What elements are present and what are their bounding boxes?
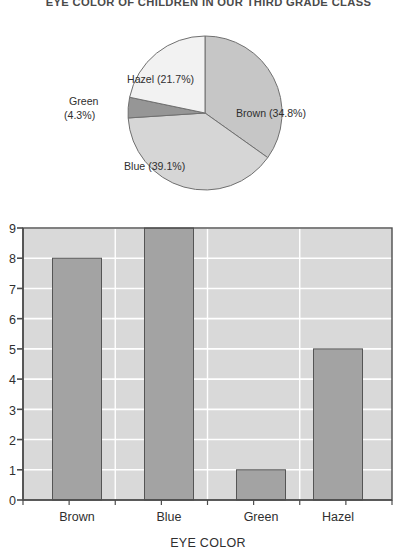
bar-blue: [145, 228, 194, 500]
x-axis-title: EYE COLOR: [170, 536, 246, 550]
pie-label-green-line2: (4.3%): [64, 109, 95, 121]
y-tick-8: 8: [9, 252, 16, 266]
y-tick-9: 9: [9, 222, 16, 236]
cat-label-green: Green: [244, 510, 279, 524]
y-tick-4: 4: [9, 373, 16, 387]
y-axis: [17, 228, 23, 500]
bar-chart: 9 8 7 6 5 4 3 2 1 0 Brown Blue Green Haz…: [0, 214, 417, 554]
cat-label-blue: Blue: [156, 510, 181, 524]
cat-label-brown: Brown: [59, 510, 94, 524]
y-tick-5: 5: [9, 343, 16, 357]
y-axis-tick-labels: 9 8 7 6 5 4 3 2 1 0: [9, 222, 16, 508]
x-axis-category-labels: Brown Blue Green Hazel: [59, 510, 354, 524]
eye-color-figure: EYE COLOR OF CHILDREN IN OUR THIRD GRADE…: [0, 0, 417, 554]
bar-chart-svg: 9 8 7 6 5 4 3 2 1 0 Brown Blue Green Haz…: [0, 214, 417, 554]
x-axis: [23, 500, 392, 505]
pie-label-blue: Blue (39.1%): [124, 160, 185, 172]
bar-brown: [53, 258, 102, 500]
y-tick-7: 7: [9, 283, 16, 297]
bar-hazel: [314, 349, 363, 500]
bar-green: [237, 470, 286, 500]
pie-chart: Brown (34.8%) Blue (39.1%) Green (4.3%) …: [0, 12, 417, 212]
y-tick-0: 0: [9, 494, 16, 508]
y-tick-1: 1: [9, 464, 16, 478]
page-title: EYE COLOR OF CHILDREN IN OUR THIRD GRADE…: [0, 0, 417, 8]
pie-label-brown: Brown (34.8%): [236, 107, 306, 119]
pie-chart-svg: Brown (34.8%) Blue (39.1%) Green (4.3%) …: [0, 12, 417, 212]
y-tick-3: 3: [9, 404, 16, 418]
pie-label-hazel: Hazel (21.7%): [127, 73, 194, 85]
y-tick-6: 6: [9, 313, 16, 327]
pie-label-green-line1: Green: [69, 95, 99, 107]
cat-label-hazel: Hazel: [322, 510, 354, 524]
y-tick-2: 2: [9, 434, 16, 448]
